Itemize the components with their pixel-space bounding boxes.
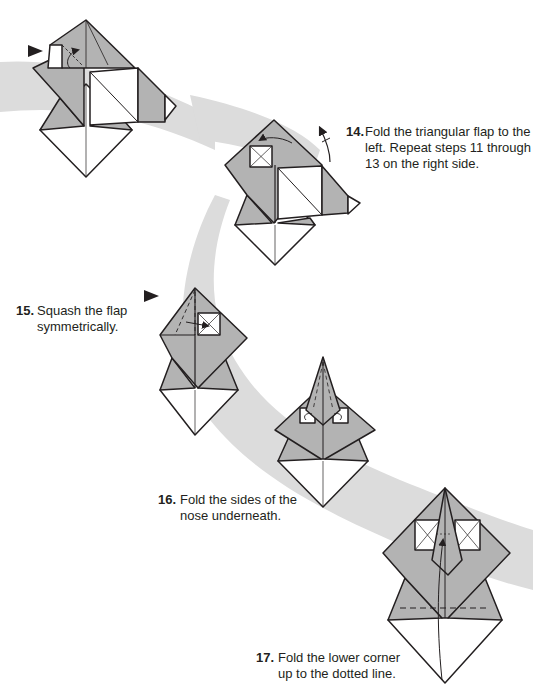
step-text: symmetrically. <box>16 319 156 335</box>
step-text: left. Repeat steps 11 through <box>346 140 533 156</box>
diagram-canvas <box>0 0 533 690</box>
step-text: Squash the flap <box>16 303 156 319</box>
step-number: 15. <box>16 303 34 319</box>
step-text: Fold the sides of the <box>158 492 328 508</box>
step-text: Fold the triangular flap to the <box>346 124 533 140</box>
step-17-caption: 17. Fold the lower corner up to the dott… <box>256 650 426 682</box>
step-number: 14. <box>346 124 364 140</box>
push-arrow-icon <box>144 290 159 302</box>
step-number: 16. <box>158 492 176 508</box>
step-text: 13 on the right side. <box>346 156 533 172</box>
step-text: Fold the lower corner <box>256 650 426 666</box>
repeat-arrow-icon <box>320 128 330 162</box>
step-16-caption: 16. Fold the sides of the nose underneat… <box>158 492 328 524</box>
step-14-caption: 14. Fold the triangular flap to the left… <box>346 124 533 172</box>
step-text: up to the dotted line. <box>256 666 426 682</box>
step-text: nose underneath. <box>158 508 328 524</box>
push-arrow-icon <box>28 45 43 57</box>
step-15-caption: 15. Squash the flap symmetrically. <box>16 303 156 335</box>
instruction-page: 14. Fold the triangular flap to the left… <box>0 0 533 690</box>
step-number: 17. <box>256 650 274 666</box>
